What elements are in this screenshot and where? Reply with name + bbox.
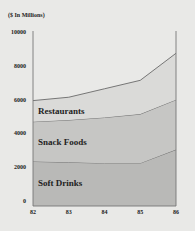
series-label-snack-foods: Snack Foods (38, 137, 87, 147)
y-axis-unit-label: ($ In Millions) (8, 12, 45, 18)
series-label-restaurants: Restaurants (38, 106, 85, 116)
x-tick-label: 85 (130, 209, 150, 215)
y-tick-label: 4000 (2, 130, 26, 136)
y-tick-label: 2000 (2, 164, 26, 170)
area-chart-svg (0, 0, 195, 231)
x-tick-label: 83 (59, 209, 79, 215)
x-tick-label: 84 (95, 209, 115, 215)
y-tick-label: 10000 (2, 29, 26, 35)
y-tick-label: 8000 (2, 63, 26, 69)
series-label-soft-drinks: Soft Drinks (38, 178, 82, 188)
x-tick-label: 86 (166, 209, 186, 215)
y-tick-label: 6000 (2, 97, 26, 103)
y-tick-label: 0 (2, 198, 26, 204)
x-tick-label: 82 (23, 209, 43, 215)
